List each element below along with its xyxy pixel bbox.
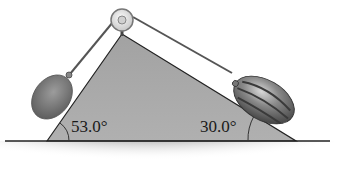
angle-label-left: 53.0° xyxy=(71,118,108,135)
incline-pulley-diagram: 53.0° 30.0° xyxy=(0,0,344,180)
angle-label-right: 30.0° xyxy=(200,118,237,135)
